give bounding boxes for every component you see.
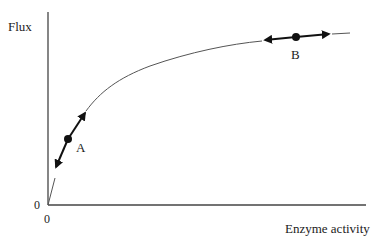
point-a-dot [64, 135, 72, 143]
flux-enzyme-diagram: Flux Enzyme activity 0 0 A B [0, 0, 377, 247]
arrow-a-lower [56, 139, 68, 167]
point-b-label: B [291, 48, 300, 61]
saturation-curve [86, 41, 262, 111]
point-b-dot [292, 33, 300, 41]
origin-x-label: 0 [44, 213, 50, 225]
y-axis-label: Flux [8, 20, 32, 33]
diagram-canvas [0, 0, 377, 247]
saturation-curve-lower [48, 178, 55, 205]
origin-y-label: 0 [34, 199, 40, 211]
x-axis-label: Enzyme activity [285, 222, 370, 235]
point-a-label: A [76, 141, 85, 154]
arrow-b-left [265, 37, 296, 40]
arrow-a [68, 113, 85, 139]
saturation-curve-upper [332, 33, 350, 34]
arrow-b-right [296, 34, 329, 37]
